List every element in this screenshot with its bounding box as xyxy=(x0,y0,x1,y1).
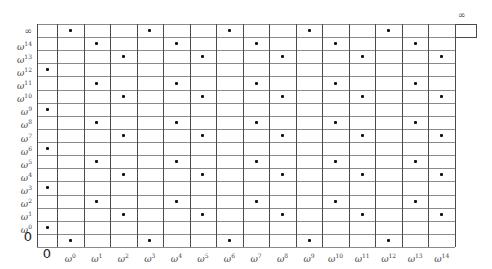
row-label: ω12 xyxy=(17,65,32,78)
grid-row-line xyxy=(37,103,455,104)
column-label: 0 xyxy=(34,249,60,259)
grid-dot xyxy=(122,95,125,98)
grid-dot xyxy=(361,134,364,137)
column-label: ω4 xyxy=(163,251,189,264)
grid-column-line xyxy=(84,24,85,247)
grid-column-line xyxy=(455,24,456,247)
grid-column-line xyxy=(137,24,138,247)
grid-dot xyxy=(148,29,151,32)
row-label: ω6 xyxy=(21,144,32,157)
grid-dot xyxy=(122,55,125,58)
grid-dot xyxy=(175,82,178,85)
grid-column-line xyxy=(322,24,323,247)
grid-dot xyxy=(334,200,337,203)
row-label: 0 xyxy=(24,232,32,242)
grid-row-line xyxy=(37,90,455,91)
grid-dot xyxy=(46,226,49,229)
grid-dot xyxy=(69,29,72,32)
column-label: ω10 xyxy=(323,251,349,264)
grid-row-line xyxy=(37,181,455,182)
grid-column-line xyxy=(216,24,217,247)
row-label: ω7 xyxy=(21,131,32,144)
grid-row-line xyxy=(37,247,455,248)
grid-dot xyxy=(46,186,49,189)
grid-dot xyxy=(308,29,311,32)
grid-dot xyxy=(201,134,204,137)
row-label: ω4 xyxy=(21,170,32,183)
grid-column-line xyxy=(349,24,350,247)
extra-infinity-cell xyxy=(454,24,477,38)
grid-dot xyxy=(175,160,178,163)
grid-dot xyxy=(281,173,284,176)
grid-dot xyxy=(175,200,178,203)
grid-dot xyxy=(95,200,98,203)
grid-row-line xyxy=(37,168,455,169)
grid-dot xyxy=(255,42,258,45)
row-label: ω3 xyxy=(21,183,32,196)
grid-dot xyxy=(46,68,49,71)
grid-dot xyxy=(122,173,125,176)
column-label: ω6 xyxy=(216,251,242,264)
grid-dot xyxy=(414,121,417,124)
grid-column-line xyxy=(269,24,270,247)
row-label: ∞ xyxy=(25,26,33,36)
grid-dot xyxy=(255,160,258,163)
row-label: ω2 xyxy=(21,196,32,209)
grid-column-line xyxy=(375,24,376,247)
grid-column-line xyxy=(296,24,297,247)
grid-dot xyxy=(414,160,417,163)
grid-column-line xyxy=(57,24,58,247)
grid-row-line xyxy=(37,195,455,196)
grid-dot xyxy=(201,213,204,216)
grid-dot xyxy=(201,95,204,98)
column-label: ω14 xyxy=(429,251,455,264)
grid-row-line xyxy=(37,76,455,77)
grid-dot xyxy=(95,121,98,124)
grid-dot xyxy=(281,134,284,137)
grid-row-line xyxy=(37,116,455,117)
grid-dot xyxy=(46,108,49,111)
table-grid xyxy=(37,24,455,247)
grid-dot xyxy=(361,55,364,58)
grid-column-line xyxy=(190,24,191,247)
grid-dot xyxy=(414,82,417,85)
grid-dot xyxy=(148,239,151,242)
grid-dot xyxy=(175,121,178,124)
grid-dot xyxy=(122,134,125,137)
grid-dot xyxy=(255,121,258,124)
grid-column-line xyxy=(243,24,244,247)
grid-dot xyxy=(228,29,231,32)
grid-dot xyxy=(228,239,231,242)
grid-column-line xyxy=(163,24,164,247)
grid-dot xyxy=(95,42,98,45)
grid-dot xyxy=(334,121,337,124)
column-label: ω13 xyxy=(402,251,428,264)
row-label: ω14 xyxy=(17,39,32,52)
row-label: ω10 xyxy=(17,91,32,104)
row-label: ω5 xyxy=(21,157,32,170)
grid-dot xyxy=(95,160,98,163)
grid-dot xyxy=(201,173,204,176)
grid-dot xyxy=(440,173,443,176)
grid-dot xyxy=(69,239,72,242)
grid-dot xyxy=(95,82,98,85)
grid-dot xyxy=(281,95,284,98)
column-label: ω5 xyxy=(190,251,216,264)
row-label: ω9 xyxy=(21,104,32,117)
grid-row-line xyxy=(37,129,455,130)
grid-dot xyxy=(122,213,125,216)
row-label: ω8 xyxy=(21,117,32,130)
grid-dot xyxy=(281,213,284,216)
column-label: ω2 xyxy=(110,251,136,264)
grid-row-line xyxy=(37,234,455,235)
row-label: ω13 xyxy=(17,52,32,65)
grid-row-line xyxy=(37,155,455,156)
column-label: ω8 xyxy=(270,251,296,264)
grid-dot xyxy=(387,29,390,32)
grid-dot xyxy=(440,55,443,58)
row-label: ω1 xyxy=(21,209,32,222)
grid-dot xyxy=(334,82,337,85)
grid-column-line xyxy=(37,24,38,247)
grid-dot xyxy=(361,213,364,216)
grid-dot xyxy=(414,200,417,203)
